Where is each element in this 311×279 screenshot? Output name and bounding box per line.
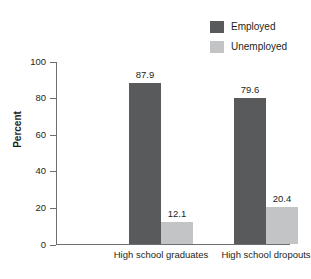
y-axis-title-label: Percent	[12, 111, 23, 148]
bar-value-label: 12.1	[168, 208, 187, 219]
y-axis-tick: 80	[50, 98, 56, 99]
bar-chart: Employed Unemployed Percent 020406080100…	[0, 0, 311, 279]
legend-item-employed: Employed	[210, 20, 287, 33]
bar: 20.4	[266, 207, 298, 244]
x-axis-category-label: High school graduates	[114, 249, 209, 261]
y-axis-tick: 20	[50, 208, 56, 209]
y-axis-tick-label: 80	[35, 92, 46, 103]
y-axis-tick: 0	[50, 245, 56, 246]
legend-swatch-employed	[210, 21, 224, 33]
chart-legend: Employed Unemployed	[210, 20, 287, 53]
y-axis-tick: 40	[50, 171, 56, 172]
y-axis-title: Percent	[10, 0, 24, 279]
legend-label-employed: Employed	[231, 21, 275, 33]
y-axis-tick: 100	[50, 62, 56, 63]
legend-label-unemployed: Unemployed	[231, 41, 287, 53]
y-axis-tick-label: 20	[35, 202, 46, 213]
y-axis-tick-label: 100	[30, 56, 46, 67]
y-axis-tick-label: 40	[35, 165, 46, 176]
bar: 87.9	[129, 83, 161, 244]
y-axis-tick-label: 60	[35, 129, 46, 140]
bar-value-label: 20.4	[273, 193, 292, 204]
x-axis-line	[56, 244, 290, 245]
plot-area: 020406080100 87.912.179.620.4	[56, 62, 290, 245]
bar-value-label: 79.6	[241, 84, 260, 95]
legend-swatch-unemployed	[210, 41, 224, 53]
bar-value-label: 87.9	[136, 69, 155, 80]
bar: 12.1	[161, 222, 193, 244]
y-axis-tick-label: 0	[41, 239, 46, 250]
bar: 79.6	[234, 98, 266, 244]
y-axis-tick: 60	[50, 135, 56, 136]
legend-item-unemployed: Unemployed	[210, 40, 287, 53]
y-axis-line	[56, 62, 57, 245]
x-axis-category-label: High school dropouts	[221, 249, 310, 261]
